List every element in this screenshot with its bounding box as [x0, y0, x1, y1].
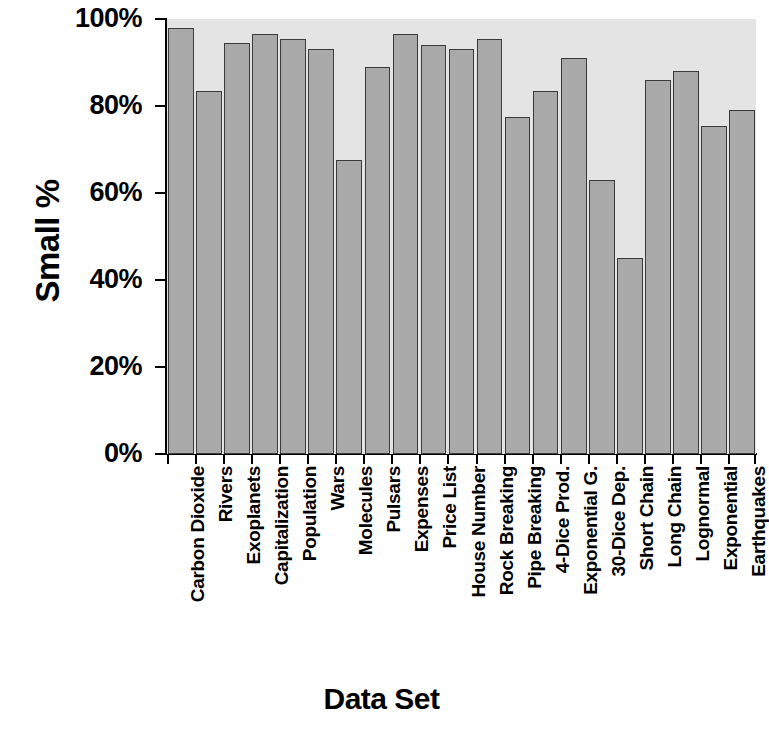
bar [393, 34, 419, 454]
x-axis-tick-mark [363, 455, 365, 464]
bar [280, 39, 306, 454]
bar [196, 91, 222, 454]
x-axis-title: Data Set [0, 682, 763, 716]
x-axis-tick-label: 4-Dice Prod. [553, 466, 572, 573]
x-axis-tick-label: Carbon Dioxide [188, 466, 207, 602]
x-axis-tick-label: Exoplanets [244, 466, 263, 564]
x-axis-tick-mark [672, 455, 674, 464]
bar [336, 160, 362, 454]
bar [645, 80, 671, 454]
x-axis-tick-label: Wars [328, 466, 347, 511]
x-axis-tick-mark [504, 455, 506, 464]
x-axis-tick-mark [307, 455, 309, 464]
x-axis-tick-mark [167, 455, 169, 464]
x-axis-tick-mark [588, 455, 590, 464]
x-axis-tick-label: Rivers [216, 466, 235, 522]
x-axis-tick-label: Population [300, 466, 319, 561]
bar [561, 58, 587, 454]
x-axis-tick-mark [728, 455, 730, 464]
x-axis-tick-label: Capitalization [272, 466, 291, 585]
bar [308, 49, 334, 454]
x-axis-tick-mark [532, 455, 534, 464]
x-axis-tick-label: Long Chain [665, 466, 684, 567]
x-axis-tick-marks [167, 455, 756, 465]
bar [421, 45, 447, 454]
x-axis-tick-mark [700, 455, 702, 464]
y-axis-tick-label: 0% [22, 440, 142, 467]
bar [224, 43, 250, 454]
x-axis-tick-label: 30-Dice Dep. [609, 466, 628, 576]
x-axis-tick-mark [251, 455, 253, 464]
bar [701, 126, 727, 454]
y-axis-tick-label: 80% [22, 92, 142, 119]
bar [168, 28, 194, 454]
x-axis-tick-label: Molecules [356, 466, 375, 555]
x-axis-tick-label: Short Chain [637, 466, 656, 570]
bar [252, 34, 278, 454]
y-axis-tick-label: 60% [22, 179, 142, 206]
x-axis-tick-label: Expenses [412, 466, 431, 552]
bar [365, 67, 391, 454]
bar [449, 49, 475, 454]
bar [617, 258, 643, 454]
x-axis-tick-label: Pulsars [384, 466, 403, 533]
bar [729, 110, 755, 454]
x-axis-tick-mark [476, 455, 478, 464]
x-axis-tick-mark [391, 455, 393, 464]
x-axis-tick-mark [419, 455, 421, 464]
x-axis-tick-mark [616, 455, 618, 464]
x-axis-tick-label: Exponential [721, 466, 740, 570]
bars-layer [167, 19, 756, 454]
y-axis-tick-labels: 100%80%60%40%20%0% [22, 0, 142, 470]
x-axis-tick-label: Rock Breaking [497, 466, 516, 595]
x-axis-tick-mark [754, 455, 756, 464]
bar [589, 180, 615, 454]
x-axis-tick-mark [223, 455, 225, 464]
x-axis-tick-mark [560, 455, 562, 464]
x-axis-tick-label: Earthquakes [749, 466, 768, 577]
bar [477, 39, 503, 454]
x-axis-tick-mark [195, 455, 197, 464]
bar [505, 117, 531, 454]
x-axis-tick-mark [335, 455, 337, 464]
y-axis-tick-label: 20% [22, 353, 142, 380]
x-axis-tick-mark [279, 455, 281, 464]
bar [673, 71, 699, 454]
x-axis-tick-mark [447, 455, 449, 464]
plot-area [167, 19, 756, 454]
bar [533, 91, 559, 454]
x-axis-tick-label: Exponential G. [581, 466, 600, 595]
x-axis-tick-mark [644, 455, 646, 464]
y-axis-tick-label: 40% [22, 266, 142, 293]
x-axis-tick-labels: Carbon DioxideRiversExoplanetsCapitaliza… [167, 466, 756, 662]
x-axis-tick-label: House Number [469, 466, 488, 598]
x-axis-tick-label: Price List [440, 466, 459, 549]
y-axis-tick-label: 100% [22, 5, 142, 32]
x-axis-tick-label: Lognormal [693, 466, 712, 561]
x-axis-tick-label: Pipe Breaking [525, 466, 544, 589]
